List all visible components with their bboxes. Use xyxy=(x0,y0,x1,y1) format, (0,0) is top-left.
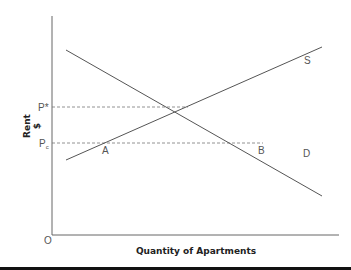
origin-label: O xyxy=(44,235,52,246)
demand-label: D xyxy=(303,148,310,159)
point-a-label: A xyxy=(102,145,109,156)
supply-demand-diagram: P* Pc A B S D O Rent $ Quantity of Apart… xyxy=(0,0,351,270)
equilibrium-price-label: P* xyxy=(38,102,49,113)
demand-curve xyxy=(66,50,322,196)
point-b-label: B xyxy=(258,145,265,156)
price-ceiling-label: Pc xyxy=(39,138,49,150)
supply-label: S xyxy=(304,55,311,66)
y-axis-title: Rent $ xyxy=(22,113,42,137)
svg-text:Rent: Rent xyxy=(22,113,32,137)
svg-text:$: $ xyxy=(32,123,42,129)
x-axis-title: Quantity of Apartments xyxy=(136,246,256,256)
